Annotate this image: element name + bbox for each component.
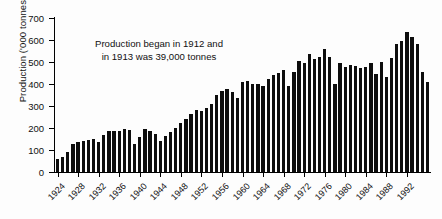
- bar: [405, 32, 408, 172]
- bar: [359, 68, 362, 172]
- x-axis-tick: [407, 173, 408, 177]
- x-axis-tick-label: 1988: [371, 181, 395, 205]
- bar: [246, 81, 249, 172]
- y-axis-tick-label: 0: [14, 167, 44, 178]
- bar: [426, 82, 429, 172]
- bar: [385, 77, 388, 172]
- bar: [369, 63, 372, 172]
- bar: [56, 159, 59, 172]
- bar: [159, 141, 162, 172]
- bar: [354, 66, 357, 172]
- bar: [241, 82, 244, 172]
- bar: [400, 41, 403, 172]
- x-axis-tick-label: 1972: [289, 181, 313, 205]
- bar: [82, 141, 85, 172]
- bar: [323, 49, 326, 172]
- bar: [200, 111, 203, 172]
- bar: [390, 58, 393, 172]
- bar: [76, 142, 79, 172]
- bar: [112, 131, 115, 172]
- bar: [143, 129, 146, 172]
- y-axis-tick-label: 300: [14, 101, 44, 112]
- y-axis-tick-label: 200: [14, 123, 44, 134]
- bar: [133, 144, 136, 172]
- x-axis-tick: [284, 173, 285, 177]
- bar: [128, 130, 131, 172]
- x-axis-tick-label: 1956: [207, 181, 231, 205]
- y-axis-tick-label: 500: [14, 57, 44, 68]
- bar: [123, 129, 126, 172]
- bar: [292, 72, 295, 172]
- x-axis-tick-label: 1944: [145, 181, 169, 205]
- x-axis-tick: [366, 173, 367, 177]
- bar: [380, 62, 383, 172]
- x-axis-tick: [181, 173, 182, 177]
- annotation-line-1: Production began in 1912 and: [68, 38, 250, 51]
- bar: [210, 104, 213, 172]
- y-axis-tick-label: 600: [14, 35, 44, 46]
- x-axis-tick-label: 1980: [330, 181, 354, 205]
- y-axis-tick-label: 100: [14, 145, 44, 156]
- bar: [374, 74, 377, 172]
- bar: [261, 86, 264, 172]
- x-axis-tick-label: 1928: [63, 181, 87, 205]
- bar: [318, 57, 321, 172]
- bar: [236, 98, 239, 172]
- bar: [344, 67, 347, 172]
- x-axis-tick-label: 1940: [125, 181, 149, 205]
- x-axis-tick-label: 1968: [269, 181, 293, 205]
- x-axis-tick-label: 1964: [248, 181, 272, 205]
- bar: [205, 108, 208, 172]
- bar: [364, 67, 367, 172]
- x-axis-tick-label: 1992: [392, 181, 416, 205]
- x-axis-tick: [201, 173, 202, 177]
- x-axis-tick: [304, 173, 305, 177]
- bar: [154, 134, 157, 172]
- bar: [297, 61, 300, 172]
- bar: [174, 128, 177, 172]
- bar: [416, 44, 419, 172]
- x-axis-tick: [345, 173, 346, 177]
- bar: [333, 84, 336, 172]
- x-axis-tick: [243, 173, 244, 177]
- bar: [87, 140, 90, 172]
- x-axis-tick-label: 1960: [228, 181, 252, 205]
- annotation-line-2: in 1913 was 39,000 tonnes: [68, 51, 250, 64]
- bar: [287, 86, 290, 172]
- bar: [251, 84, 254, 172]
- x-axis-tick: [58, 173, 59, 177]
- x-axis-tick-label: 1952: [186, 181, 210, 205]
- x-axis-tick: [386, 173, 387, 177]
- x-axis-tick-label: 1932: [84, 181, 108, 205]
- bar: [195, 110, 198, 172]
- bar: [225, 89, 228, 172]
- y-axis-tick-label: 400: [14, 79, 44, 90]
- bar: [349, 65, 352, 172]
- bar: [169, 132, 172, 172]
- bar: [421, 72, 424, 172]
- bar: [256, 84, 259, 172]
- bar: [308, 54, 311, 172]
- bar: [71, 144, 74, 172]
- bar: [61, 157, 64, 172]
- x-axis-tick: [263, 173, 264, 177]
- bar: [179, 123, 182, 173]
- bar: [189, 114, 192, 172]
- x-axis-tick: [160, 173, 161, 177]
- bar: [164, 136, 167, 172]
- bar: [282, 70, 285, 172]
- bar: [220, 91, 223, 172]
- bar: [231, 92, 234, 172]
- bar: [148, 131, 151, 172]
- bar: [410, 37, 413, 172]
- x-axis-tick-label: 1984: [351, 181, 375, 205]
- y-axis-tick-group: 0100200300400500600700: [0, 0, 49, 219]
- bar: [313, 59, 316, 172]
- x-axis-tick: [78, 173, 79, 177]
- bar: [338, 63, 341, 172]
- x-axis-tick: [222, 173, 223, 177]
- bar: [102, 135, 105, 172]
- bar: [97, 142, 100, 172]
- x-axis-tick-label: 1976: [310, 181, 334, 205]
- y-axis-tick-label: 700: [14, 13, 44, 24]
